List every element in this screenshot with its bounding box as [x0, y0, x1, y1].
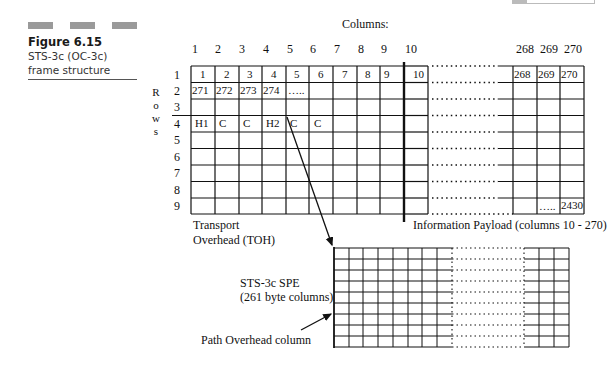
frame-cell-c: C — [290, 117, 297, 129]
spe-label: STS-3c SPE — [240, 276, 300, 291]
toh-label: Transport — [193, 218, 239, 233]
rows-label-letter: w — [151, 112, 161, 124]
row-number: 3 — [172, 100, 182, 115]
toh-label-line2: Overhead (TOH) — [193, 233, 275, 248]
frame-cell-ellipsis: ….. — [539, 200, 556, 212]
column-header: 6 — [301, 42, 325, 57]
frame-cell: 273 — [240, 84, 257, 96]
frame-cell: 5 — [294, 68, 300, 80]
frame-cell-last: 2430 — [561, 199, 583, 211]
frame-cell: 8 — [365, 68, 371, 80]
row-number: 8 — [172, 183, 182, 198]
row-number: 1 — [172, 68, 182, 83]
pointer-arrow-path-overhead — [301, 314, 331, 330]
row-number: 2 — [172, 84, 182, 99]
column-header: 4 — [254, 42, 278, 57]
column-header: 7 — [325, 42, 349, 57]
column-header: 1 — [183, 42, 207, 57]
row-number: 4 — [172, 117, 182, 132]
row-number: 6 — [172, 150, 182, 165]
frame-cell: 271 — [192, 84, 209, 96]
frame-cell: 6 — [318, 68, 324, 80]
frame-cell: 270 — [561, 68, 578, 80]
rows-label-letter: R — [151, 86, 161, 98]
frame-cell: 9 — [384, 68, 390, 80]
rows-label-letter: o — [151, 99, 161, 111]
frame-cell: 274 — [263, 84, 280, 96]
frame-cell-c: C — [243, 117, 250, 129]
column-header: 8 — [349, 42, 373, 57]
row-number: 7 — [172, 166, 182, 181]
frame-cell-h2: H2 — [266, 117, 279, 129]
payload-label: Information Payload (columns 10 - 270) — [413, 218, 607, 233]
frame-cell-h1: H1 — [195, 117, 208, 129]
frame-cell: 10 — [413, 68, 424, 80]
frame-cell: 272 — [216, 84, 233, 96]
column-header: 270 — [561, 42, 585, 57]
frame-cell: 268 — [514, 68, 531, 80]
column-header: 268 — [513, 42, 537, 57]
frame-cell: 4 — [271, 68, 277, 80]
frame-cell: 1 — [200, 68, 206, 80]
frame-cell: 3 — [247, 68, 253, 80]
row-number: 5 — [172, 133, 182, 148]
rows-label-letter: s — [151, 125, 161, 137]
frame-cell: 2 — [224, 68, 230, 80]
frame-cell-c: C — [314, 117, 321, 129]
frame-cell: 7 — [342, 68, 348, 80]
frame-cell-c: C — [219, 117, 226, 129]
spe-label-line2: (261 byte columns) — [240, 290, 333, 305]
frame-cell: 269 — [538, 68, 555, 80]
column-header: 3 — [230, 42, 254, 57]
column-header: 10 — [399, 42, 423, 57]
columns-heading: Columns: — [342, 17, 389, 32]
row-number: 9 — [172, 199, 182, 214]
column-header: 5 — [278, 42, 302, 57]
column-header: 9 — [372, 42, 396, 57]
column-header: 2 — [206, 42, 230, 57]
path-overhead-label: Path Overhead column — [201, 333, 311, 348]
frame-cell-ellipsis: ….. — [288, 84, 305, 96]
column-header: 269 — [537, 42, 561, 57]
